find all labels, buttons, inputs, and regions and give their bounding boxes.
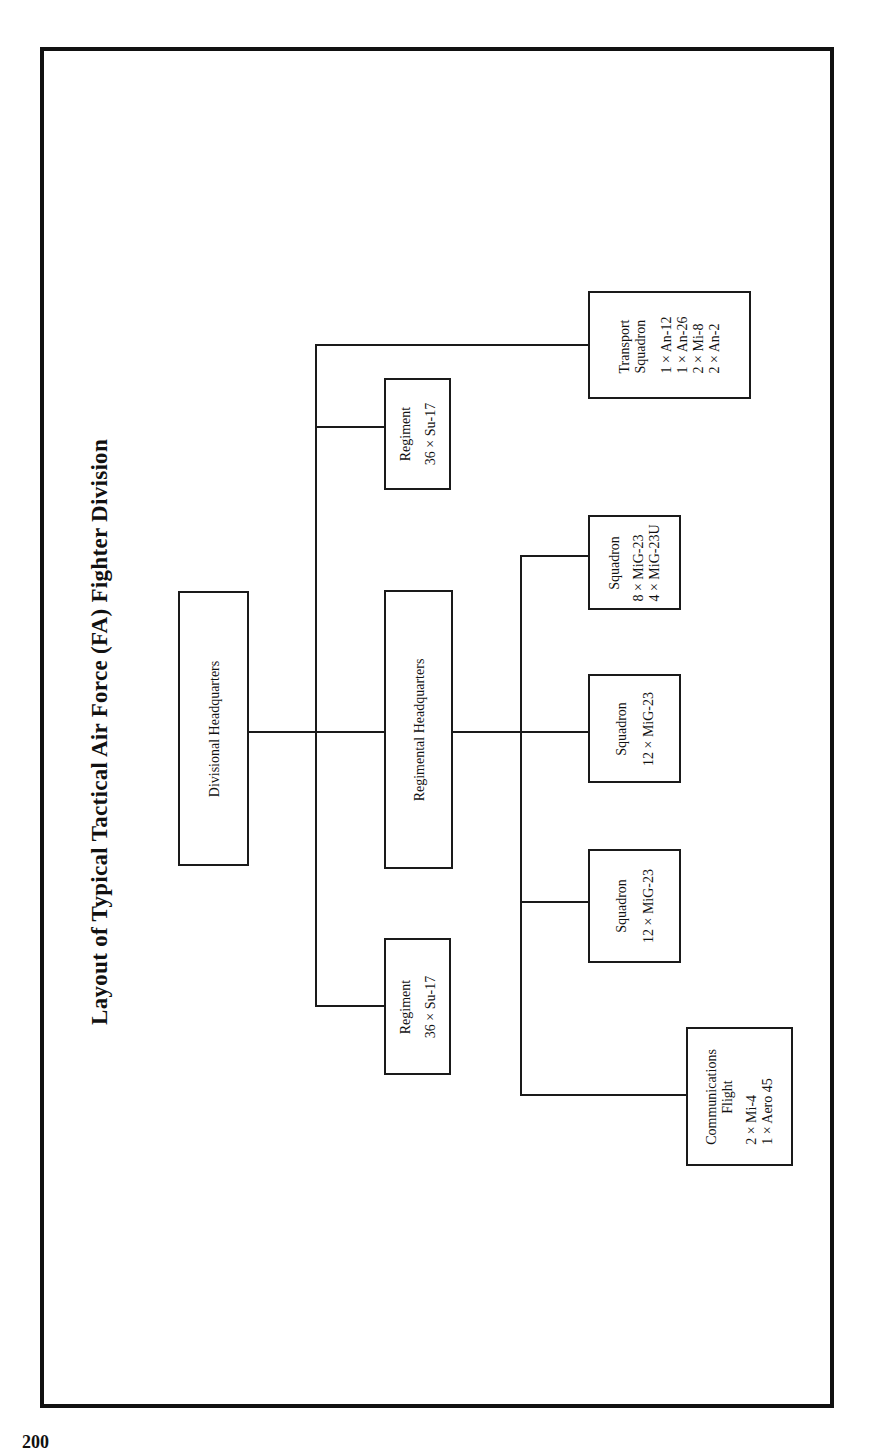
node-communications-flight: Communications Flight 2 × Mi-4 1 × Aero … [686,1027,793,1166]
node-label: Flight [720,1049,736,1145]
node-label: Squadron [607,536,622,590]
diagram-title: Layout of Typical Tactical Air Force (FA… [87,439,113,1025]
aircraft-line: 1 × An-12 [659,317,675,374]
aircraft-line: 2 × Mi-8 [691,317,707,374]
node-squadron-3: Squadron 12 × MiG-23 [588,849,681,963]
connector-to-transport [315,344,589,346]
node-label: Squadron [633,317,649,374]
node-label: Regiment [398,407,413,461]
aircraft-line: 8 × MiG-23 [631,524,647,601]
aircraft-line: 4 × MiG-23U [647,524,663,601]
aircraft-line: 2 × An-2 [707,317,723,374]
aircraft-line: 12 × MiG-23 [640,691,657,765]
connector-to-regiment-2 [315,1005,385,1007]
aircraft-line: 36 × Su-17 [422,403,439,465]
connector-to-squadron-1 [520,555,589,557]
aircraft-line: 2 × Mi-4 [744,1049,760,1145]
aircraft-line: 36 × Su-17 [422,975,439,1037]
node-label: Divisional Headquarters [206,660,221,796]
node-label: Regiment [398,979,413,1033]
aircraft-line: 1 × An-26 [675,317,691,374]
connector-regthq-to-squadrons [452,731,522,733]
connector-to-regiment-1 [315,426,385,428]
node-regiment-2: Regiment 36 × Su-17 [384,938,451,1075]
node-squadron-2: Squadron 12 × MiG-23 [588,674,681,783]
node-transport-squadron: Transport Squadron 1 × An-12 1 × An-26 2… [588,291,751,399]
connector-to-squadron-2 [520,731,589,733]
node-squadron-1: Squadron 8 × MiG-23 4 × MiG-23U [588,515,681,610]
aircraft-line: 1 × Aero 45 [760,1049,776,1145]
node-regimental-hq: Regimental Headquarters [384,590,453,869]
connector-to-squadron-3 [520,901,589,903]
node-label: Regimental Headquarters [411,658,426,801]
connector-div-spine [315,344,317,1007]
connector-to-comms-flight [520,1094,687,1096]
page-number: 200 [22,1432,49,1452]
node-divisional-hq: Divisional Headquarters [178,591,249,866]
node-label: Communications [704,1049,720,1145]
node-regiment-1: Regiment 36 × Su-17 [384,378,451,490]
node-label: Transport [617,317,633,374]
connector-regt-spine [520,555,522,1096]
node-label: Squadron [614,702,629,756]
node-label: Squadron [614,879,629,933]
aircraft-line: 12 × MiG-23 [640,869,657,943]
